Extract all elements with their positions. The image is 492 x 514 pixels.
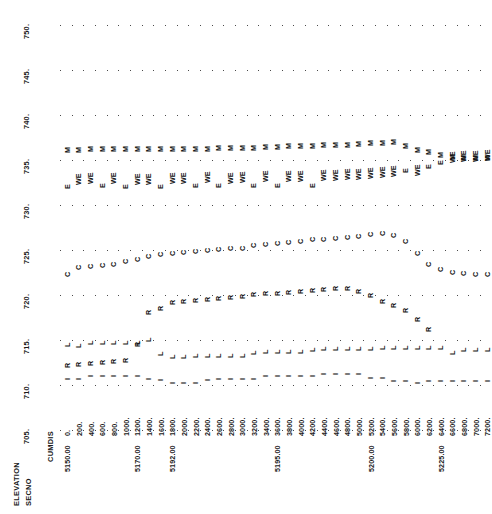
x-tick-label: 5800. (402, 418, 411, 437)
secno-label: 5192.00 (168, 445, 177, 472)
data-point-e: E (122, 185, 129, 190)
data-point-r: R (192, 297, 199, 302)
data-point-e: E (250, 184, 257, 189)
grid-dot (387, 115, 388, 116)
grid-dot (177, 295, 178, 296)
grid-dot (445, 25, 446, 26)
grid-dot (317, 115, 318, 116)
grid-dot (95, 70, 96, 71)
grid-dot (387, 205, 388, 206)
grid-dot (107, 205, 108, 206)
grid-dot (398, 340, 399, 341)
data-point-we: WE (285, 171, 292, 183)
data-point-we: WE (390, 165, 397, 177)
data-point-we: WE (320, 170, 327, 182)
grid-dot (480, 115, 481, 116)
grid-dot (468, 340, 469, 341)
grid-dot (177, 205, 178, 206)
grid-dot (375, 70, 376, 71)
data-point-c: C (274, 241, 281, 246)
grid-dot (188, 70, 189, 71)
data-point-m: M (414, 147, 421, 153)
x-tick-label: 4400. (320, 418, 329, 437)
grid-dot (83, 385, 84, 386)
data-point-l: L (344, 347, 351, 351)
data-point-l: L (99, 341, 106, 345)
x-tick-label: 1000. (122, 418, 131, 437)
data-point-c: C (484, 271, 491, 276)
grid-dot (188, 340, 189, 341)
data-point-we: WE (204, 171, 211, 183)
data-point-i: I (344, 373, 351, 375)
grid-dot (270, 70, 271, 71)
data-point-l: L (367, 347, 374, 351)
data-point-c: C (110, 261, 117, 266)
grid-dot (387, 25, 388, 26)
y-tick-label: 705. (22, 429, 31, 444)
grid-dot (375, 295, 376, 296)
grid-dot (235, 115, 236, 116)
data-point-c: C (449, 270, 456, 275)
data-point-l: L (472, 348, 479, 352)
grid-dot (95, 160, 96, 161)
grid-dot (165, 25, 166, 26)
x-tick-label: 4200. (308, 418, 317, 437)
x-tick-label: 400. (87, 422, 96, 436)
data-point-m: M (472, 155, 479, 161)
grid-dot (398, 385, 399, 386)
grid-dot (258, 295, 259, 296)
data-point-i: I (192, 382, 199, 384)
x-tick-label: 2000. (180, 418, 189, 437)
data-point-r: R (99, 360, 106, 365)
data-point-l: L (239, 353, 246, 357)
data-point-r: R (274, 290, 281, 295)
data-point-i: I (285, 375, 292, 377)
grid-dot (130, 385, 131, 386)
data-point-c: C (157, 252, 164, 257)
grid-dot (235, 340, 236, 341)
data-point-we: WE (134, 173, 141, 185)
data-point-m: M (355, 141, 362, 147)
grid-dot (200, 115, 201, 116)
data-point-m: M (134, 146, 141, 152)
data-point-r: R (87, 360, 94, 365)
data-point-m: M (449, 154, 456, 160)
grid-dot (247, 160, 248, 161)
data-point-i: I (262, 375, 269, 377)
grid-dot (328, 295, 329, 296)
grid-dot (410, 25, 411, 26)
grid-dot (480, 25, 481, 26)
grid-dot (340, 160, 341, 161)
x-axis-title: CUMDIS (46, 431, 55, 462)
data-point-i: I (134, 375, 141, 377)
grid-dot (293, 70, 294, 71)
grid-dot (212, 385, 213, 386)
grid-dot (72, 115, 73, 116)
y-tick-label: 710. (22, 384, 31, 399)
grid-dot (72, 205, 73, 206)
grid-dot (375, 115, 376, 116)
grid-dot (72, 25, 73, 26)
grid-dot (468, 295, 469, 296)
grid-dot (457, 115, 458, 116)
grid-dot (200, 25, 201, 26)
data-point-m: M (215, 145, 222, 151)
data-point-r: R (425, 326, 432, 331)
grid-dot (305, 160, 306, 161)
data-point-i: I (297, 375, 304, 377)
data-point-c: C (75, 265, 82, 270)
grid-dot (422, 25, 423, 26)
grid-dot (480, 340, 481, 341)
data-point-we: WE (145, 173, 152, 185)
grid-dot (60, 205, 61, 206)
grid-dot (212, 70, 213, 71)
grid-dot (398, 70, 399, 71)
grid-dot (142, 205, 143, 206)
grid-dot (200, 340, 201, 341)
grid-dot (317, 160, 318, 161)
data-point-l: L (87, 341, 94, 345)
grid-dot (340, 115, 341, 116)
grid-dot (480, 295, 481, 296)
data-point-c: C (390, 233, 397, 238)
grid-dot (293, 385, 294, 386)
